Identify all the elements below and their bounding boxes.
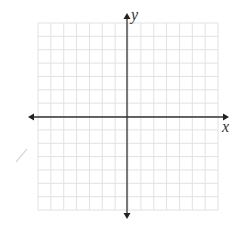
y-axis-down-arrow-icon — [124, 213, 131, 219]
stray-mark — [16, 149, 27, 162]
x-axis-left-arrow-icon — [28, 114, 34, 121]
y-axis — [124, 13, 131, 219]
y-axis-label: y — [129, 6, 139, 24]
y-axis-up-arrow-icon — [124, 13, 131, 19]
coordinate-plane: x y — [0, 0, 242, 232]
x-axis-label: x — [221, 118, 229, 135]
